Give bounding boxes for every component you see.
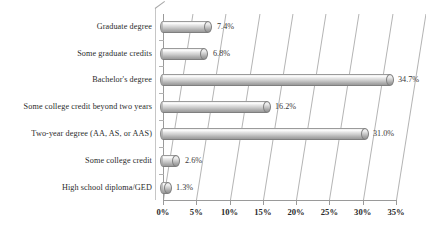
category-label: Graduate degree bbox=[97, 23, 158, 31]
x-axis-tick-label: 15% bbox=[254, 208, 271, 217]
data-label: 1.3% bbox=[176, 184, 193, 192]
category-label: Some college credit beyond two years bbox=[24, 103, 158, 111]
x-axis-tick bbox=[396, 200, 397, 205]
y-axis-tick bbox=[159, 174, 164, 175]
bar-right-cap bbox=[263, 101, 271, 113]
gridline bbox=[329, 14, 359, 200]
category-label: Some college credit bbox=[85, 157, 158, 165]
x-axis-tick-label: 5% bbox=[190, 208, 203, 217]
gridline bbox=[296, 14, 326, 200]
bar-high-school-diploma-ged bbox=[163, 182, 172, 194]
x-axis-tick bbox=[163, 200, 164, 205]
x-axis-tick bbox=[296, 200, 297, 205]
bar-two-year-degree bbox=[163, 128, 369, 140]
y-axis-tick bbox=[159, 66, 164, 67]
x-axis-tick-label: 20% bbox=[288, 208, 305, 217]
y-axis-tick bbox=[159, 120, 164, 121]
bar-bachelors-degree bbox=[163, 74, 394, 86]
bar-body bbox=[163, 128, 365, 140]
bar-some-graduate-credits bbox=[163, 48, 208, 60]
gridline bbox=[396, 14, 426, 200]
bar-right-cap bbox=[172, 155, 180, 167]
x-axis-tick bbox=[196, 200, 197, 205]
bar-body bbox=[163, 48, 204, 60]
category-label: Two-year degree (AA, AS, or AAS) bbox=[31, 130, 158, 138]
bar-body bbox=[163, 21, 208, 33]
x-axis-line bbox=[163, 200, 396, 201]
bar-body bbox=[163, 101, 267, 113]
bar-some-college-credit-beyond-two-years bbox=[163, 101, 271, 113]
gridline bbox=[363, 14, 393, 200]
x-axis-tick-label: 35% bbox=[387, 208, 404, 217]
bar-right-cap bbox=[200, 48, 208, 60]
bar-right-cap bbox=[361, 128, 369, 140]
y-axis-tick bbox=[159, 93, 164, 94]
bar-right-cap bbox=[386, 74, 394, 86]
category-label: Some graduate credits bbox=[77, 49, 158, 57]
bar-some-college-credit bbox=[163, 155, 180, 167]
data-label: 31.0% bbox=[373, 130, 394, 138]
x-axis-tick bbox=[363, 200, 364, 205]
x-axis-tick bbox=[263, 200, 264, 205]
x-axis-tick-label: 10% bbox=[221, 208, 238, 217]
x-axis-tick bbox=[329, 200, 330, 205]
data-label: 7.4% bbox=[217, 23, 234, 31]
y-axis-depth-edge bbox=[155, 1, 165, 9]
y-axis-tick bbox=[159, 147, 164, 148]
bar-graduate-degree bbox=[163, 21, 212, 33]
category-label: Bachelor's degree bbox=[92, 76, 158, 84]
bar-right-cap bbox=[204, 21, 212, 33]
x-axis-tick bbox=[230, 200, 231, 205]
x-axis-tick-label: 25% bbox=[321, 208, 338, 217]
data-label: 2.6% bbox=[185, 157, 202, 165]
x-axis-tick-label: 0% bbox=[157, 208, 170, 217]
category-label: High school diploma/GED bbox=[62, 184, 158, 192]
bar-body bbox=[163, 74, 390, 86]
x-axis-tick-label: 30% bbox=[354, 208, 371, 217]
data-label: 16.2% bbox=[275, 103, 296, 111]
data-label: 34.7% bbox=[398, 76, 419, 84]
data-label: 6.8% bbox=[213, 49, 230, 57]
y-axis-tick bbox=[159, 40, 164, 41]
bar-right-cap bbox=[164, 182, 172, 194]
